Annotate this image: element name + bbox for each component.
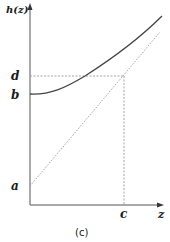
x-axis-label: z <box>157 208 165 221</box>
diagram: h(z) d b a c z (c) <box>0 0 170 242</box>
label-b: b <box>11 88 19 102</box>
label-d: d <box>11 69 20 83</box>
curve-h-z <box>30 16 162 94</box>
y-axis-label: h(z) <box>6 4 29 15</box>
label-a: a <box>11 179 19 193</box>
x-axis-arrow-icon <box>157 203 164 208</box>
dotted-diagonal-line <box>30 32 160 186</box>
label-c: c <box>120 207 128 221</box>
figure-caption: (c) <box>75 227 88 238</box>
